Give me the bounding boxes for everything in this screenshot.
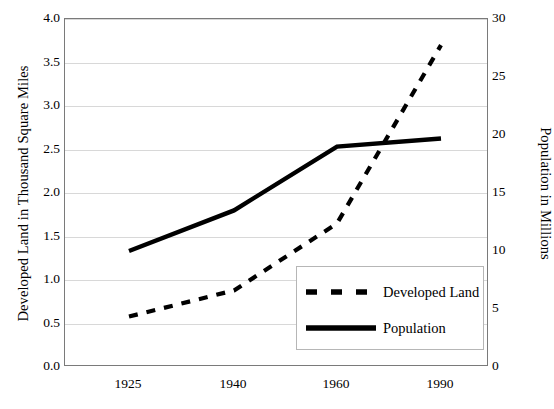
legend-entry-population: Population (297, 315, 485, 341)
x-tick-label: 1940 (220, 376, 247, 392)
x-tick-label: 1990 (427, 376, 454, 392)
legend-label-population: Population (383, 320, 446, 337)
legend-label-developed-land: Developed Land (383, 284, 479, 301)
legend-swatch-dashed-icon (297, 279, 383, 305)
legend-swatch-solid-icon (297, 315, 383, 341)
legend-entry-developed-land: Developed Land (297, 279, 485, 305)
chart-legend: Developed Land Population (296, 266, 484, 350)
x-tick-label: 1960 (323, 376, 350, 392)
x-tick-label: 1925 (115, 376, 142, 392)
